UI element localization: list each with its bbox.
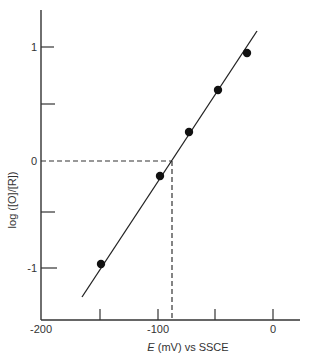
data-point — [156, 172, 164, 180]
y-tick-label: 0 — [31, 155, 37, 167]
data-point — [214, 86, 222, 94]
data-point — [97, 260, 105, 268]
y-axis-label: log ([O]/[R]) — [6, 172, 18, 229]
data-point — [185, 128, 193, 136]
x-tick-label: 0 — [270, 323, 276, 335]
fit-line — [82, 31, 257, 297]
x-tick-label: -100 — [147, 323, 169, 335]
y-tick-label: 1 — [31, 41, 37, 53]
x-axis-label: E (mV) vs SSCE — [147, 341, 228, 353]
y-tick-label: -1 — [27, 262, 37, 274]
chart: 1 0 -1 -200 -100 0 E (mV) vs SSCE log ([… — [0, 0, 309, 357]
data-point — [243, 49, 251, 57]
x-tick-label: -200 — [30, 323, 52, 335]
